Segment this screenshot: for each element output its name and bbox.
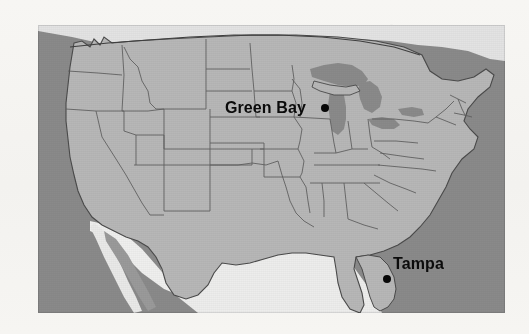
city-label-tampa: Tampa: [393, 256, 444, 272]
city-dot-tampa: [383, 275, 391, 283]
city-dot-green-bay: [321, 104, 329, 112]
map-page: Green Bay Tampa: [0, 0, 529, 334]
city-label-green-bay: Green Bay: [225, 100, 306, 116]
